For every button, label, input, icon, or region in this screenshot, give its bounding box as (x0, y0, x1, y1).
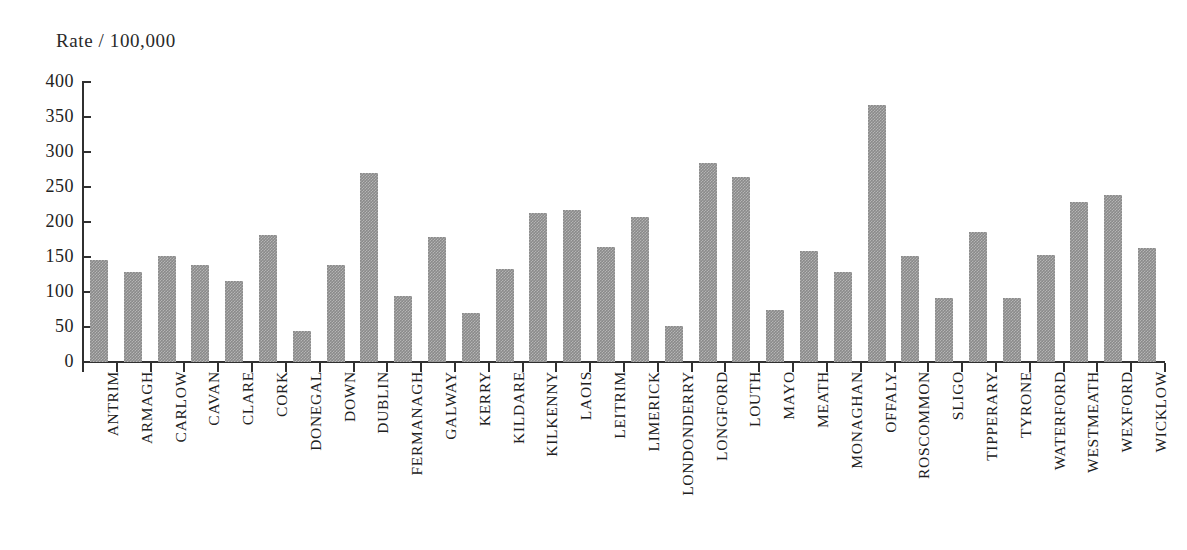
bar (935, 298, 953, 362)
bar (732, 177, 750, 363)
bar (158, 256, 176, 362)
bar (529, 213, 547, 362)
bar (428, 237, 446, 362)
x-axis-category-label: ANTRIM (105, 371, 121, 436)
category-label-text: DONEGAL (308, 371, 324, 451)
bar (597, 247, 615, 363)
bar (90, 260, 108, 362)
category-label-text: WESTMEATH (1085, 371, 1101, 473)
category-label-text: MONAGHAN (849, 371, 865, 469)
bar (631, 217, 649, 362)
x-axis-category-label: MONAGHAN (849, 371, 865, 469)
x-axis-category-label: CORK (274, 371, 290, 417)
category-label-text: DUBLIN (375, 371, 391, 434)
x-axis-category-label: CAVAN (206, 371, 222, 426)
bar (1138, 248, 1156, 362)
x-axis-category-label: MEATH (815, 371, 831, 428)
category-label-text: ARMAGH (139, 371, 155, 444)
x-axis-category-label: KILKENNY (544, 371, 560, 457)
y-axis-tick-label: 300 (24, 142, 74, 160)
x-axis-category-label: LONGFORD (714, 371, 730, 461)
y-axis-tick-label: 250 (24, 177, 74, 195)
category-label-text: ANTRIM (105, 371, 121, 436)
bar (969, 232, 987, 362)
x-axis-category-label: LONDONDERRY (680, 371, 696, 496)
bar (699, 163, 717, 362)
category-label-text: TIPPERARY (984, 371, 1000, 461)
category-label-text: MEATH (815, 371, 831, 428)
x-axis-category-label: MAYO (781, 371, 797, 420)
x-axis-category-label: WEXFORD (1119, 371, 1135, 453)
category-label-text: OFFALY (883, 371, 899, 433)
x-axis-category-label: WESTMEATH (1085, 371, 1101, 473)
x-axis-category-label: DUBLIN (375, 371, 391, 434)
x-axis-category-label: ROSCOMMON (916, 371, 932, 479)
x-axis-category-label: SLIGO (950, 371, 966, 420)
category-label-text: LONGFORD (714, 371, 730, 461)
category-label-text: LEITRIM (612, 371, 628, 439)
x-axis-category-label: LIMERICK (646, 371, 662, 452)
x-axis-category-label: TYRONE (1018, 371, 1034, 438)
bar (868, 105, 886, 362)
x-axis-category-label: LAOIS (578, 371, 594, 420)
bar (191, 265, 209, 362)
category-label-text: LONDONDERRY (680, 371, 696, 496)
bar (1003, 298, 1021, 362)
bar (327, 265, 345, 362)
category-label-text: DOWN (342, 371, 358, 422)
category-label-text: KERRY (477, 371, 493, 426)
category-label-text: CARLOW (173, 371, 189, 442)
bar (259, 235, 277, 362)
bar (293, 331, 311, 362)
category-label-text: LIMERICK (646, 371, 662, 452)
bar (800, 251, 818, 362)
x-axis-category-label: LOUTH (747, 371, 763, 427)
y-axis-tick-label: 100 (24, 282, 74, 300)
x-axis-category-label: ARMAGH (139, 371, 155, 444)
bar (665, 326, 683, 362)
bar (462, 313, 480, 362)
y-axis-tick-label: 400 (24, 72, 74, 90)
y-axis-tick-label: 350 (24, 107, 74, 125)
category-label-text: WICKLOW (1153, 371, 1169, 453)
category-label-text: GALWAY (443, 371, 459, 440)
category-label-text: LOUTH (747, 371, 763, 427)
x-axis-category-label: CLARE (240, 371, 256, 425)
bar (124, 272, 142, 362)
y-axis-tick-label: 0 (24, 352, 74, 370)
bar (766, 310, 784, 363)
bar-chart-figure: Rate / 100,000 050100150200250300350400 … (0, 0, 1187, 550)
bar (563, 210, 581, 362)
bar (360, 173, 378, 362)
x-axis-category-label: KILDARE (511, 371, 527, 444)
x-axis-category-label: CARLOW (173, 371, 189, 442)
category-label-text: CAVAN (206, 371, 222, 426)
category-label-text: CORK (274, 371, 290, 417)
y-axis-tick-label: 50 (24, 317, 74, 335)
x-axis-category-label: DOWN (342, 371, 358, 422)
category-label-text: KILDARE (511, 371, 527, 444)
bar (496, 269, 514, 362)
category-label-text: TYRONE (1018, 371, 1034, 438)
bar (225, 281, 243, 362)
category-label-text: WEXFORD (1119, 371, 1135, 453)
plot-area (82, 82, 1164, 362)
category-label-text: LAOIS (578, 371, 594, 420)
category-label-text: WATERFORD (1052, 371, 1068, 470)
bar (1104, 195, 1122, 362)
category-label-text: CLARE (240, 371, 256, 425)
y-axis-tick-label: 150 (24, 247, 74, 265)
category-label-text: KILKENNY (544, 371, 560, 457)
x-axis-category-label: GALWAY (443, 371, 459, 440)
bar (394, 296, 412, 362)
x-axis-category-label: DONEGAL (308, 371, 324, 451)
category-label-text: SLIGO (950, 371, 966, 420)
category-label-text: MAYO (781, 371, 797, 420)
x-axis-category-label: WICKLOW (1153, 371, 1169, 453)
x-axis-category-label: FERMANAGH (409, 371, 425, 475)
y-axis-tick-labels: 050100150200250300350400 (18, 0, 74, 550)
x-axis-category-label: OFFALY (883, 371, 899, 433)
x-axis-category-label: LEITRIM (612, 371, 628, 439)
bar (834, 272, 852, 362)
x-axis-category-label: WATERFORD (1052, 371, 1068, 470)
